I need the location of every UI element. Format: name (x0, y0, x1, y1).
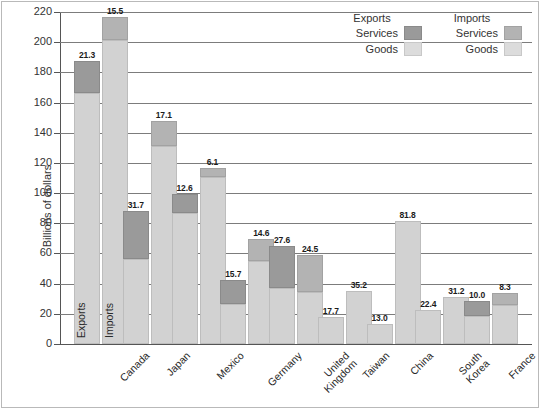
bar-segment-exports-goods (367, 324, 393, 344)
bar-segment-exports-services (464, 301, 490, 316)
y-axis-tick-label: 220 (8, 5, 52, 17)
legend-item-exports-services: Services (322, 26, 422, 40)
bar-group: 86.612.6110.66.1 (172, 12, 226, 344)
bar-value-label: 13.0 (368, 313, 392, 323)
y-axis-tick-label: 0 (8, 337, 52, 349)
y-axis-tick-label: 160 (8, 96, 52, 108)
y-axis-tick-mark (54, 193, 60, 194)
bar-group: 166.521.3Exports201.315.5Imports (74, 12, 128, 344)
bar-value-label: 22.4 (416, 299, 440, 309)
y-axis-tick-mark (54, 103, 60, 104)
bar-value-label: 21.3 (75, 50, 99, 60)
y-axis-tick-mark (54, 284, 60, 285)
y-axis-tick-mark (54, 314, 60, 315)
bar-group: 13.081.8 (367, 12, 421, 344)
y-axis-tick-label: 120 (8, 156, 52, 168)
legend-swatch-exports-services (404, 26, 422, 40)
y-axis-tick-label: 180 (8, 65, 52, 77)
bar-segment-imports-services (492, 293, 518, 306)
legend-swatch-imports-services (504, 26, 522, 40)
bar-segment-exports-services (123, 211, 149, 259)
y-axis-tick-label: 40 (8, 277, 52, 289)
chart-legend: Exports Imports Services Services Goods … (322, 12, 522, 56)
legend-label-exports-services: Services (356, 27, 398, 39)
bar-value-label: 8.3 (493, 282, 517, 292)
bar-value-label: 17.7 (319, 306, 343, 316)
y-axis-tick-mark (54, 42, 60, 43)
y-axis-tick-label: 100 (8, 186, 52, 198)
plot-area: 020406080100120140160180200220166.521.3E… (60, 12, 532, 344)
bar-group: 22.431.2 (415, 12, 469, 344)
bar-segment-exports-goods (74, 93, 100, 344)
y-axis-tick-mark (54, 72, 60, 73)
legend-header-imports: Imports (422, 12, 522, 24)
legend-item-imports-services: Services (422, 26, 522, 40)
legend-label-exports-goods: Goods (366, 43, 398, 55)
x-axis-line (60, 344, 532, 345)
bar-group: 26.615.755.214.6 (220, 12, 274, 344)
bar-value-label: 10.0 (465, 290, 489, 300)
bar-value-label: 12.6 (173, 183, 197, 193)
y-axis-tick-mark (54, 133, 60, 134)
y-axis-tick-label: 200 (8, 35, 52, 47)
bar-segment-exports-services (172, 194, 198, 213)
bar-group: 18.510.025.78.3 (464, 12, 518, 344)
legend-swatch-imports-goods (504, 42, 522, 56)
bar-segment-imports-goods (492, 305, 518, 344)
legend-label-imports-services: Services (456, 27, 498, 39)
bar-segment-exports-services (220, 280, 246, 304)
bar-group: 17.735.2 (318, 12, 372, 344)
bar-group: 56.431.7130.917.1 (123, 12, 177, 344)
bar-segment-exports-goods (415, 310, 441, 344)
y-axis-tick-mark (54, 344, 60, 345)
bar-segment-exports-goods (220, 304, 246, 344)
legend-header-exports: Exports (322, 12, 422, 24)
y-axis-tick-mark (54, 223, 60, 224)
legend-item-exports-goods: Goods (322, 42, 422, 56)
y-axis-title: Billions of dollars (41, 164, 53, 247)
bar-segment-exports-goods (318, 317, 344, 344)
y-axis-tick-label: 140 (8, 126, 52, 138)
legend-label-imports-goods: Goods (466, 43, 498, 55)
bar-segment-exports-goods (269, 288, 295, 344)
y-axis-tick-mark (54, 163, 60, 164)
bar-value-label: 27.6 (270, 235, 294, 245)
legend-swatch-exports-goods (404, 42, 422, 56)
y-axis-tick-label: 60 (8, 246, 52, 258)
bar-segment-exports-services (269, 246, 295, 288)
bar-segment-exports-services (74, 61, 100, 93)
y-axis-tick-label: 20 (8, 307, 52, 319)
legend-item-imports-goods: Goods (422, 42, 522, 56)
bar-value-label: 15.7 (221, 269, 245, 279)
bar-segment-exports-goods (464, 316, 490, 344)
y-axis-tick-mark (54, 12, 60, 13)
y-axis-tick-label: 80 (8, 216, 52, 228)
bar-group: 37.327.634.624.5 (269, 12, 323, 344)
y-axis-tick-mark (54, 253, 60, 254)
bar-value-label: 31.7 (124, 200, 148, 210)
trade-bar-chart: Billions of dollars 02040608010012014016… (0, 0, 542, 411)
bar-segment-exports-goods (123, 259, 149, 344)
bar-segment-exports-goods (172, 213, 198, 344)
y-axis-line (60, 12, 61, 344)
